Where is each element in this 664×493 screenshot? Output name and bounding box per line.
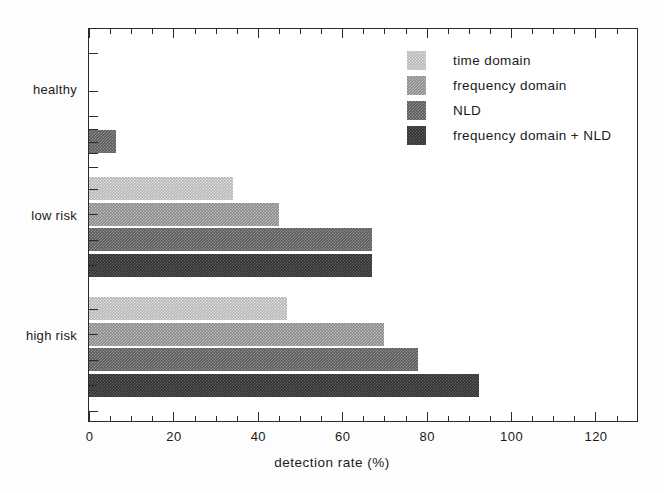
bar-high-risk-time-domain: [89, 297, 287, 320]
x-axis-tick-top: [490, 29, 491, 34]
legend-item-label: NLD: [453, 103, 481, 118]
x-axis-tick: [406, 416, 407, 421]
x-axis-tick: [490, 416, 491, 421]
x-axis-tick: [532, 416, 533, 421]
swatch-frequency-domain-icon: [407, 76, 426, 95]
x-axis-tick-label: 20: [166, 429, 181, 444]
swatch-nld-icon: [407, 101, 426, 120]
x-axis-tick: [300, 416, 301, 421]
y-axis-tick: [89, 240, 98, 241]
x-axis-tick-label: 100: [500, 429, 523, 444]
x-axis-tick-top: [574, 29, 575, 34]
chart-legend: time domain frequency domain NLD frequen…: [407, 48, 632, 148]
legend-item: time domain: [407, 48, 632, 73]
x-axis-tick-top: [363, 29, 364, 34]
y-axis-tick-label: low risk: [0, 208, 77, 223]
legend-item: frequency domain: [407, 73, 632, 98]
x-axis-tick: [363, 416, 364, 421]
x-axis-tick-top: [216, 29, 217, 34]
legend-item: frequency domain + NLD: [407, 123, 632, 148]
y-axis-tick-label: healthy: [0, 82, 77, 97]
x-axis-tick-top: [110, 29, 111, 34]
x-axis-tick: [553, 416, 554, 421]
legend-item-label: frequency domain: [453, 78, 567, 93]
y-axis-tick: [89, 411, 98, 412]
x-axis-tick: [89, 412, 90, 421]
x-axis-tick: [574, 416, 575, 421]
x-axis-tick-top: [131, 29, 132, 34]
x-axis-tick-top: [511, 29, 512, 38]
bar-low-risk-frequency-domain: [89, 203, 279, 226]
y-axis-tick: [89, 153, 98, 154]
y-axis-tick: [89, 129, 98, 130]
x-axis-tick: [195, 416, 196, 421]
y-axis-tick: [89, 116, 98, 117]
x-axis-tick-top: [300, 29, 301, 34]
x-axis-tick-top: [553, 29, 554, 34]
x-axis-tick-top: [595, 29, 596, 38]
y-axis-tick: [89, 142, 98, 143]
x-axis-tick: [110, 416, 111, 421]
y-axis-tick: [89, 360, 98, 361]
x-axis-tick-top: [532, 29, 533, 34]
x-axis-title: detection rate (%): [0, 455, 664, 470]
x-axis-tick: [342, 412, 343, 421]
legend-item: NLD: [407, 98, 632, 123]
bar-low-risk-time-domain: [89, 177, 233, 200]
x-axis-tick-top: [617, 29, 618, 34]
x-axis-tick-top: [279, 29, 280, 34]
x-axis-tick-top: [237, 29, 238, 34]
swatch-frequency-domain-nld-icon: [407, 126, 426, 145]
y-axis-tick: [89, 189, 98, 190]
bar-low-risk-NLD: [89, 228, 372, 251]
x-axis-tick: [216, 416, 217, 421]
x-axis-tick-top: [152, 29, 153, 34]
bar-low-risk-frequency-domain-NLD: [89, 254, 372, 277]
x-axis-tick-top: [384, 29, 385, 34]
bar-high-risk-frequency-domain-NLD: [89, 374, 479, 397]
x-axis-tick-top: [258, 29, 259, 38]
swatch-time-domain-icon: [407, 51, 426, 70]
x-axis-tick: [384, 416, 385, 421]
bar-high-risk-NLD: [89, 348, 418, 371]
chart-figure: detection rate (%) time domain frequency…: [0, 0, 664, 493]
x-axis-tick-top: [342, 29, 343, 38]
x-axis-tick-label: 80: [420, 429, 435, 444]
y-axis-tick: [89, 53, 98, 54]
x-axis-tick-top: [195, 29, 196, 34]
x-axis-tick-top: [321, 29, 322, 34]
x-axis-tick: [173, 412, 174, 421]
x-axis-tick: [595, 412, 596, 421]
y-axis-tick: [89, 309, 98, 310]
y-axis-tick: [89, 167, 98, 168]
x-axis-tick-top: [469, 29, 470, 34]
x-axis-tick-label: 60: [335, 429, 350, 444]
x-axis-tick: [321, 416, 322, 421]
x-axis-tick-top: [173, 29, 174, 38]
x-axis-tick: [617, 416, 618, 421]
bar-high-risk-frequency-domain: [89, 323, 384, 346]
x-axis-tick: [469, 416, 470, 421]
x-axis-tick: [279, 416, 280, 421]
x-axis-tick: [258, 412, 259, 421]
x-axis-tick-top: [427, 29, 428, 38]
x-axis-tick-top: [406, 29, 407, 34]
y-axis-tick: [89, 385, 98, 386]
x-axis-tick-label: 40: [251, 429, 266, 444]
y-axis-tick: [89, 265, 98, 266]
x-axis-tick-top: [448, 29, 449, 34]
x-axis-tick-label: 120: [585, 429, 608, 444]
x-axis-tick: [511, 412, 512, 421]
y-axis-tick-label: high risk: [0, 328, 77, 343]
y-axis-tick: [89, 91, 98, 92]
x-axis-tick: [448, 416, 449, 421]
x-axis-tick: [427, 412, 428, 421]
x-axis-tick-top: [89, 29, 90, 38]
legend-item-label: time domain: [453, 53, 531, 68]
x-axis-tick: [131, 416, 132, 421]
x-axis-tick: [237, 416, 238, 421]
x-axis-tick: [152, 416, 153, 421]
x-axis-tick-label: 0: [86, 429, 94, 444]
y-axis-tick: [89, 214, 98, 215]
y-axis-tick: [89, 334, 98, 335]
